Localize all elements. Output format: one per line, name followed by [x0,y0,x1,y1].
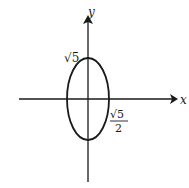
y-intercept-label: √5 [64,51,79,65]
x-intercept-denominator: 2 [115,122,122,135]
x-intercept-numerator: √5 [110,108,124,121]
x-axis-label: x [180,93,187,107]
ellipse-diagram: x y √5 √5 2 [0,0,189,188]
y-axis-label: y [87,5,95,19]
